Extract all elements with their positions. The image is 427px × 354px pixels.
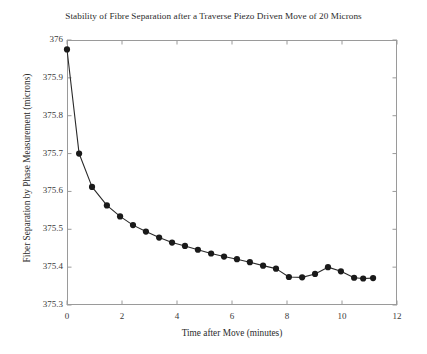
x-axis-tick-labels: 024681012: [0, 0, 427, 354]
x-tick-label: 10: [327, 312, 357, 321]
x-tick-label: 6: [217, 312, 247, 321]
x-tick-label: 0: [52, 312, 82, 321]
x-tick-label: 2: [107, 312, 137, 321]
x-axis-label: Time after Move (minutes): [67, 328, 397, 338]
y-axis-label: Fiber Separation by Phase Measurement (m…: [22, 43, 32, 293]
x-tick-label: 4: [162, 312, 192, 321]
x-tick-label: 12: [382, 312, 412, 321]
x-tick-label: 8: [272, 312, 302, 321]
chart-figure: Stability of Fibre Separation after a Tr…: [0, 0, 427, 354]
